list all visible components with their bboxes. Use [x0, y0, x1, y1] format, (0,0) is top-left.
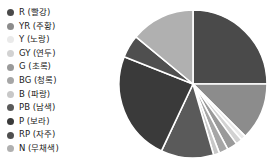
legend-swatch-icon [7, 36, 14, 43]
pie-chart-area [110, 0, 276, 165]
pie-chart-figure: R (빨강)YR (주황)Y (노랑)GY (연두)G (초록)BG (청록)B… [0, 0, 276, 165]
legend-item-label: BG (청록) [19, 74, 57, 88]
chart-legend: R (빨강)YR (주황)Y (노랑)GY (연두)G (초록)BG (청록)B… [0, 0, 110, 165]
legend-item-label: R (빨강) [19, 6, 50, 20]
legend-item-label: G (초록) [19, 60, 51, 74]
legend-item-label: PB (남색) [19, 101, 55, 115]
legend-swatch-icon [7, 77, 14, 84]
legend-swatch-icon [7, 145, 14, 152]
legend-item-label: P (보라) [19, 115, 49, 129]
legend-swatch-icon [7, 132, 14, 139]
legend-item-label: YR (주황) [19, 20, 55, 34]
legend-item-pb[interactable]: PB (남색) [7, 101, 110, 115]
legend-swatch-icon [7, 104, 14, 111]
legend-item-rp[interactable]: RP (자주) [7, 128, 110, 142]
legend-item-yr[interactable]: YR (주황) [7, 20, 110, 34]
legend-item-n[interactable]: N (무채색) [7, 142, 110, 156]
legend-item-label: RP (자주) [19, 128, 55, 142]
legend-swatch-icon [7, 64, 14, 71]
pie-slice-r[interactable] [193, 10, 267, 84]
pie-chart-svg [110, 0, 276, 165]
legend-item-y[interactable]: Y (노랑) [7, 33, 110, 47]
legend-item-b[interactable]: B (파랑) [7, 88, 110, 102]
legend-item-label: Y (노랑) [19, 33, 50, 47]
legend-item-label: GY (연두) [19, 47, 56, 61]
legend-swatch-icon [7, 50, 14, 57]
legend-item-g[interactable]: G (초록) [7, 60, 110, 74]
legend-swatch-icon [7, 9, 14, 16]
legend-item-r[interactable]: R (빨강) [7, 6, 110, 20]
legend-item-gy[interactable]: GY (연두) [7, 47, 110, 61]
legend-item-label: N (무채색) [19, 142, 59, 156]
legend-item-bg[interactable]: BG (청록) [7, 74, 110, 88]
legend-swatch-icon [7, 118, 14, 125]
legend-swatch-icon [7, 23, 14, 30]
legend-item-label: B (파랑) [19, 88, 50, 102]
legend-item-p[interactable]: P (보라) [7, 115, 110, 129]
legend-swatch-icon [7, 91, 14, 98]
